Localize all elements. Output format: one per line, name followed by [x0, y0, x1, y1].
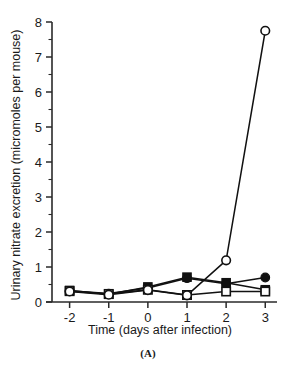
data-point-open-square	[261, 287, 269, 295]
x-tick-label: 3	[262, 310, 269, 325]
data-point-open-circle	[65, 287, 74, 296]
y-tick-label: 1	[35, 260, 42, 275]
y-tick-label: 8	[35, 15, 42, 30]
y-tick-label: 7	[35, 50, 42, 65]
y-axis-title-text: Urinary nitrate excretion (micromoles pe…	[9, 30, 23, 301]
panel-label: (A)	[140, 347, 156, 360]
y-axis-tick-labels: 012345678	[35, 15, 42, 310]
data-point-open-circle	[261, 26, 270, 35]
data-point-filled-circle	[261, 273, 270, 282]
nitrate-excretion-line-chart: Urinary nitrate excretion (micromoles pe…	[0, 0, 295, 375]
series-lines	[70, 31, 266, 296]
figure-panel-a: Urinary nitrate excretion (micromoles pe…	[0, 0, 295, 375]
series-line-open-circle	[70, 31, 266, 296]
x-axis-major-ticks	[70, 302, 266, 308]
y-tick-label: 2	[35, 225, 42, 240]
y-tick-label: 4	[35, 155, 42, 170]
data-point-open-circle	[222, 256, 231, 265]
x-axis-title-text: Time (days after infection)	[88, 323, 232, 337]
series-markers	[65, 26, 269, 299]
y-tick-label: 0	[35, 295, 42, 310]
data-point-filled-circle	[183, 274, 192, 283]
y-axis-title: Urinary nitrate excretion (micromoles pe…	[9, 30, 23, 301]
y-tick-label: 3	[35, 190, 42, 205]
data-point-open-circle	[183, 291, 192, 300]
x-tick-label: -2	[64, 310, 76, 325]
y-axis-major-ticks	[46, 22, 52, 302]
data-point-open-circle	[104, 290, 113, 299]
y-tick-label: 6	[35, 85, 42, 100]
y-tick-label: 5	[35, 120, 42, 135]
data-point-open-square	[222, 287, 230, 295]
data-point-open-circle	[144, 286, 153, 295]
